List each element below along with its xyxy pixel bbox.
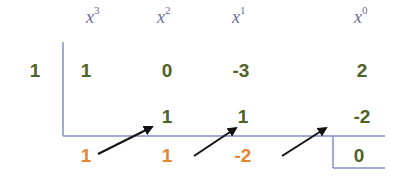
result-x1: 1 (162, 145, 173, 167)
result-x2: 1 (81, 145, 92, 167)
result-x0: -2 (235, 145, 252, 167)
arrow-2 (194, 128, 236, 156)
header-x2: x2 (157, 6, 171, 28)
coefficient-x2: 0 (162, 60, 173, 82)
product-x0: -2 (354, 106, 371, 128)
division-lines (0, 0, 393, 179)
arrow-1 (98, 127, 152, 154)
header-x1: x1 (232, 6, 246, 28)
divisor: 1 (30, 60, 41, 82)
product-x1: 1 (238, 106, 249, 128)
coefficient-x1: -3 (233, 60, 250, 82)
remainder: 0 (354, 145, 365, 167)
header-x3: x3 (86, 6, 100, 28)
coefficient-x0: 2 (357, 60, 368, 82)
header-x0: x0 (354, 6, 368, 28)
coefficient-x3: 1 (81, 60, 92, 82)
arrow-3 (282, 128, 326, 156)
product-x2: 1 (162, 106, 173, 128)
